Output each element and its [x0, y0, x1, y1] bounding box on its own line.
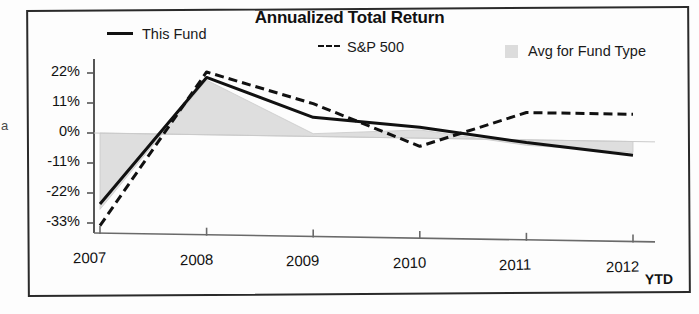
y-axis-tick-label: 0%: [8, 123, 80, 139]
x-axis-ytd-note: YTD: [645, 271, 673, 287]
x-axis-tick-label: 2008: [179, 250, 213, 268]
y-axis-tick-label: -11%: [8, 153, 80, 169]
y-axis-tick-label: 22%: [8, 63, 80, 79]
y-axis-tick-label: -33%: [8, 213, 80, 229]
x-axis-tick-label: 2007: [73, 249, 107, 267]
scanned-page: a Annualized Total Return This Fund S&P …: [0, 0, 699, 314]
chart-plot-area: [0, 0, 699, 314]
x-axis-tick-label: 2009: [286, 252, 320, 270]
line-series-sp500: [100, 72, 633, 226]
y-axis-tick-label: -22%: [8, 183, 80, 199]
x-axis-line: [94, 233, 655, 242]
y-axis-tick-label: 11%: [8, 93, 80, 109]
x-axis-tick-label: 2011: [499, 256, 532, 274]
x-axis-tick-label: 2010: [393, 254, 427, 272]
x-axis-tick-label: 2012: [606, 257, 640, 275]
